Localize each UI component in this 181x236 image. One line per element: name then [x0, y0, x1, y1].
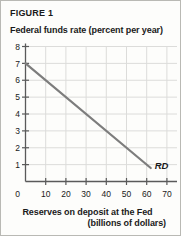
- y-tick-label: 8: [15, 42, 20, 52]
- y-tick-label: 7: [15, 59, 20, 69]
- y-axis-tick-labels: 012345678: [15, 42, 20, 199]
- curve-annotations: RD: [155, 160, 169, 171]
- y-tick-label: 6: [15, 75, 20, 85]
- x-tick-label: 50: [122, 189, 132, 199]
- y-tick-label: 5: [15, 92, 20, 102]
- x-tick-label: 70: [162, 189, 172, 199]
- x-tick-label: 40: [102, 189, 112, 199]
- x-axis-title-line1: Reserves on deposit at the Fed: [22, 207, 152, 217]
- x-axis-title: Reserves on deposit at the Fed (billions…: [1, 207, 174, 229]
- y-axis-title: Federal funds rate (percent per year): [10, 25, 163, 35]
- figure-panel: FIGURE 1 Federal funds rate (percent per…: [0, 0, 181, 236]
- demand-curve-series: [26, 63, 151, 168]
- x-tick-label: 10: [41, 189, 51, 199]
- x-axis-tick-labels: 10203040506070: [41, 189, 172, 199]
- funds-rate-chart: 012345678 10203040506070 RD: [1, 37, 181, 205]
- y-tick-label: 0: [15, 189, 20, 199]
- curve-rd: [26, 63, 151, 168]
- y-tick-label: 4: [15, 109, 20, 119]
- y-tick-label: 3: [15, 126, 20, 136]
- x-tick-label: 20: [61, 189, 71, 199]
- x-tick-label: 30: [81, 189, 91, 199]
- x-axis-title-line2: (billions of dollars): [1, 218, 174, 229]
- curve-label-rd: RD: [155, 160, 169, 171]
- y-tick-label: 2: [15, 143, 20, 153]
- x-tick-label: 60: [142, 189, 152, 199]
- horizontal-gridlines: [26, 47, 178, 165]
- y-tick-label: 1: [15, 160, 20, 170]
- figure-label: FIGURE 1: [10, 8, 53, 18]
